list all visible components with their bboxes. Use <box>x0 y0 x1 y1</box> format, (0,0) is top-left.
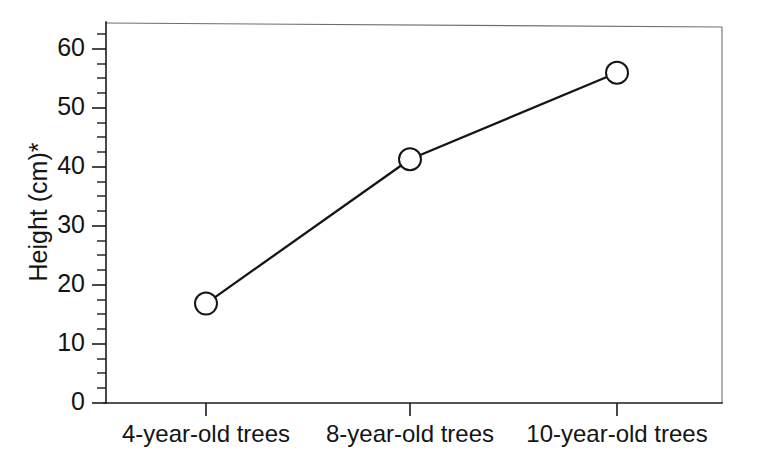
x-tick-label-10-year-old-trees: 10-year-old trees <box>526 420 707 447</box>
y-axis-major-ticks <box>92 49 106 403</box>
x-tick-label-8-year-old-trees: 8-year-old trees <box>326 420 494 447</box>
y-tick-label-40: 40 <box>57 151 85 179</box>
x-tick-label-4-year-old-trees: 4-year-old trees <box>122 420 290 447</box>
series-line-height <box>206 73 617 304</box>
y-tick-label-30: 30 <box>57 210 85 238</box>
y-axis-minor-ticks <box>97 34 106 388</box>
data-point-marker-0[interactable] <box>195 293 217 315</box>
plot-frame <box>104 22 722 403</box>
data-point-marker-1[interactable] <box>399 148 421 170</box>
x-axis-ticks <box>206 403 617 416</box>
chart-figure: 0 10 20 30 40 50 60 Height (cm)* 4-year-… <box>0 0 760 459</box>
y-tick-label-0: 0 <box>71 387 85 415</box>
y-tick-label-50: 50 <box>57 92 85 120</box>
frame-top-border <box>106 23 722 27</box>
x-axis-tick-labels: 4-year-old trees 8-year-old trees 10-yea… <box>122 420 708 447</box>
y-tick-label-60: 60 <box>57 33 85 61</box>
y-axis-title: Height (cm)* <box>24 142 52 281</box>
y-tick-label-20: 20 <box>57 269 85 297</box>
y-axis-tick-labels: 0 10 20 30 40 50 60 <box>57 33 85 415</box>
y-axis-title-group: Height (cm)* <box>24 142 52 281</box>
data-point-marker-2[interactable] <box>606 62 628 84</box>
data-series-height <box>195 62 628 315</box>
y-tick-label-10: 10 <box>57 328 85 356</box>
line-chart: 0 10 20 30 40 50 60 Height (cm)* 4-year-… <box>0 0 760 459</box>
